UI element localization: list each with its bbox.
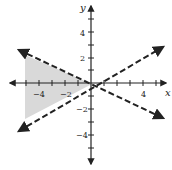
y-tick-label: 2 xyxy=(80,54,85,63)
x-tick-label: 4 xyxy=(141,90,146,99)
y-axis-label: y xyxy=(79,2,86,13)
y-tick-label: 4 xyxy=(80,29,85,38)
y-tick-label: −2 xyxy=(76,105,88,114)
coordinate-plane: x y −4 −2 4 4 2 −2 −4 xyxy=(0,0,172,170)
x-tick-label: −2 xyxy=(60,90,72,99)
x-axis-label: x xyxy=(165,87,171,98)
y-tick-label: −4 xyxy=(76,131,88,140)
x-tick-label: −4 xyxy=(33,90,45,99)
